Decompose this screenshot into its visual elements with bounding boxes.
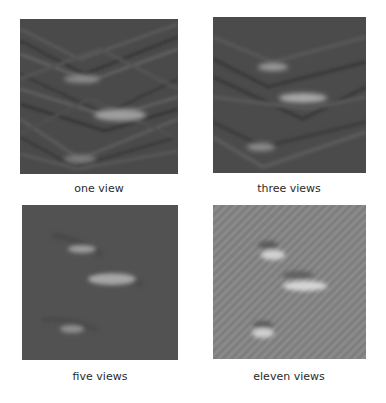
caption-three-views: three views	[209, 182, 369, 195]
reconstruction-image-eleven-views	[213, 205, 366, 359]
caption-eleven-views: eleven views	[209, 370, 369, 383]
reconstruction-image-three-views	[213, 17, 366, 173]
panel-one-view	[20, 19, 178, 174]
panel-eleven-views	[213, 205, 366, 359]
panel-five-views	[22, 205, 178, 360]
reconstruction-image-one-view	[20, 19, 178, 174]
reconstruction-image-five-views	[22, 205, 178, 360]
caption-five-views: five views	[20, 370, 180, 383]
caption-one-view: one view	[19, 182, 179, 195]
panel-three-views	[213, 17, 366, 173]
